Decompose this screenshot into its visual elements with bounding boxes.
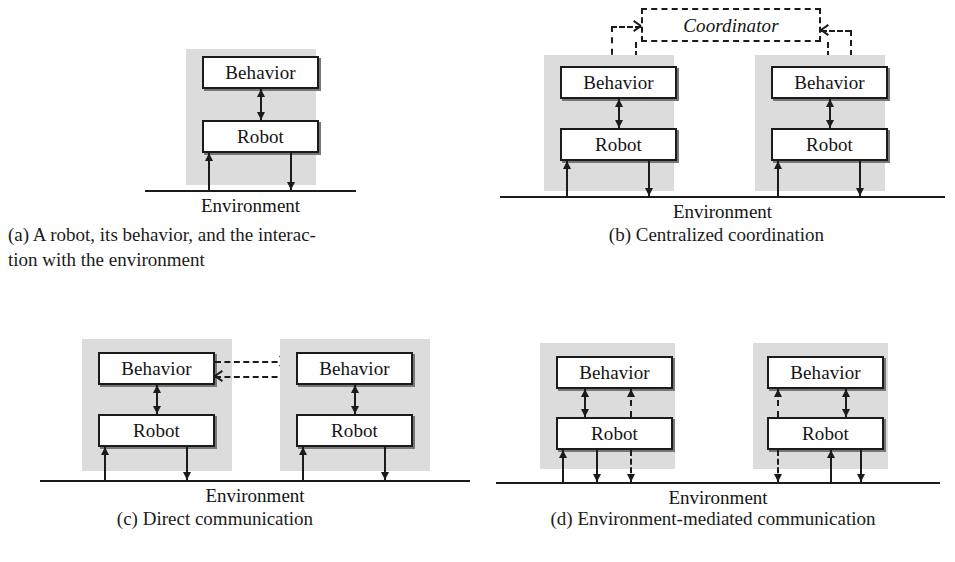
caption-c: (c) Direct communication [0,506,430,531]
behavior-robot-arrowhead-down [153,406,161,414]
behavior-box: Behavior [296,352,413,385]
robot-box: Robot [767,417,884,450]
direct-comm-link-leftward [215,376,287,378]
behavior-box: Behavior [560,66,677,99]
act-arrowhead [645,188,653,196]
robot-box: Robot [202,120,319,153]
caption-b-line1: (b) Centralized coordination [478,222,955,247]
robot-box: Robot [560,128,677,161]
direct-comm-link-rightward [215,361,287,363]
stigmergy-downlink-arrowhead [627,474,635,482]
caption-b: (b) Centralized coordination [478,222,955,247]
behavior-box: Behavior [771,66,888,99]
sense-arrowhead [774,161,782,169]
behavior-robot-arrowhead-up [351,385,359,393]
caption-c-line1: (c) Direct communication [0,506,430,531]
behavior-robot-arrowhead-down [351,406,359,414]
sense-arrowhead [827,450,835,458]
act-arrowhead [593,474,601,482]
caption-d: (d) Environment-mediated communication [478,506,948,531]
figure-robot-coordination-schemes: Behavior Robot Environment (a) A robot, … [0,0,955,562]
panel-c: Behavior Robot Behavior Robot Environmen… [0,281,478,562]
behavior-robot-arrowhead-up [153,385,161,393]
robot-box: Robot [98,414,215,447]
behavior-robot-arrowhead-down [257,112,265,120]
behavior-robot-arrowhead-down [581,409,589,417]
environment-label: Environment [40,485,470,507]
behavior-box: Behavior [98,352,215,385]
sense-arrowhead [299,447,307,455]
environment-line [145,190,356,192]
sense-arrowhead [205,153,213,161]
act-arrowhead [857,474,865,482]
sense-arrowhead [101,447,109,455]
panel-d: Behavior Robot Behavior Robot [478,281,955,562]
act-arrowhead [287,182,295,190]
environment-line [40,480,470,482]
caption-a-line1: (a) A robot, its behavior, and the inter… [8,222,468,247]
environment-line [500,196,945,198]
behavior-robot-arrowhead-down [615,120,623,128]
act-arrowhead [856,188,864,196]
caption-a-line2: tion with the environment [8,247,468,272]
behavior-robot-arrowhead-up [581,389,589,397]
sense-arrowhead [563,161,571,169]
panel-b: Coordinator Behavior Robot Behavior Ro [478,0,955,281]
stigmergy-uplink-arrowhead [627,389,635,397]
behavior-robot-arrowhead-down [826,120,834,128]
stigmergy-uplink-arrowhead [774,389,782,397]
caption-a: (a) A robot, its behavior, and the inter… [8,222,468,272]
coordinator-uplink-right-arrowhead [821,29,830,31]
robot-box: Robot [771,128,888,161]
caption-d-line1: (d) Environment-mediated communication [478,506,948,531]
coordinator-box: Coordinator [641,8,821,42]
sense-arrowhead [559,450,567,458]
behavior-robot-arrowhead-up [257,89,265,97]
act-arrowhead [381,472,389,480]
direct-comm-arrowhead-left [215,375,224,377]
behavior-robot-arrowhead-down [842,409,850,417]
coordinator-uplink-left-arrowhead [632,25,641,27]
behavior-box: Behavior [767,356,884,389]
behavior-robot-arrowhead-up [826,99,834,107]
environment-label: Environment [500,201,945,223]
panel-a: Behavior Robot Environment (a) A robot, … [0,0,478,281]
act-arrowhead [183,472,191,480]
behavior-robot-arrowhead-up [615,99,623,107]
behavior-box: Behavior [202,56,319,89]
robot-box: Robot [296,414,413,447]
environment-label: Environment [145,195,356,217]
behavior-robot-arrowhead-up [842,389,850,397]
environment-line [496,482,940,484]
robot-box: Robot [556,417,673,450]
stigmergy-downlink-arrowhead [774,474,782,482]
behavior-box: Behavior [556,356,673,389]
